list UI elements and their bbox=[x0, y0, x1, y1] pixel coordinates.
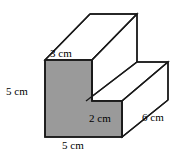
dimension-label-left-height: 5 cm bbox=[6, 86, 28, 97]
step-solid-drawing bbox=[0, 0, 179, 158]
dimension-label-step-height: 2 cm bbox=[89, 113, 111, 124]
dimension-label-top-edge: 3 cm bbox=[50, 48, 72, 59]
dimension-label-depth: 6 cm bbox=[142, 112, 164, 123]
step-solid-figure: 3 cm 5 cm 5 cm 2 cm 6 cm bbox=[0, 0, 179, 158]
dimension-label-bottom-width: 5 cm bbox=[62, 140, 84, 151]
